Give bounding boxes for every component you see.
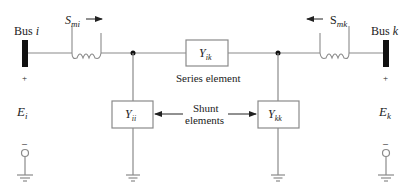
shunt-i-ground [126,128,140,181]
bus-k-voltage: Ek [378,104,392,121]
bus-i-bar [22,40,28,67]
bus-k-minus: – [382,138,389,149]
ct-coil-k-icon [320,26,349,58]
source-i-ground [17,150,33,182]
shunt-caption-line2: elements [185,114,224,126]
bus-k-plus: + [383,73,388,83]
shunt-k-ground [271,128,285,181]
bus-i-plus: + [22,73,27,83]
shunt-caption-line1: Shunt [193,102,219,114]
bus-k-label: Bus k [371,24,399,38]
bus-network-diagram: Bus i + Ei – Smi Yik Series element Yii … [0,0,410,192]
bus-i-voltage: Ei [16,104,28,121]
series-element-caption: Series element [176,72,240,84]
flow-i-label: Smi [65,13,80,29]
bus-i-label: Bus i [14,24,39,38]
flow-k-label: Smk [330,13,348,29]
ct-coil-i-icon [72,26,101,58]
bus-k-bar [383,40,389,67]
source-k-ground [378,150,394,182]
bus-i-minus: – [21,138,28,149]
